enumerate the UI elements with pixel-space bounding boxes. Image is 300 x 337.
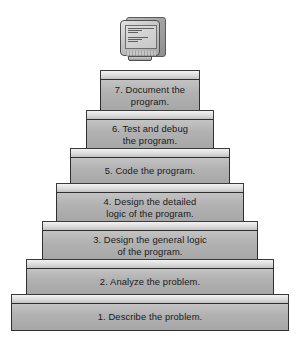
step-label: 5. Code the program.: [101, 165, 200, 177]
step-front-face: 6. Test and debug the program.: [86, 119, 214, 150]
step-4: 4. Design the detailed logic of the prog…: [56, 183, 244, 225]
screen-text-gap: [128, 34, 154, 36]
step-label: 6. Test and debug the program.: [108, 123, 192, 147]
step-7: 7. Document the program.: [100, 70, 200, 112]
step-front-face: 7. Document the program.: [100, 79, 200, 112]
step-front-face: 2. Analyze the problem.: [26, 268, 274, 295]
screen-text-line: [128, 30, 142, 31]
step-6: 6. Test and debug the program.: [86, 110, 214, 152]
computer-monitor-icon: [118, 15, 168, 65]
step-front-face: 1. Describe the problem.: [11, 303, 289, 331]
monitor-base: [128, 56, 152, 61]
step-front-face: 4. Design the detailed logic of the prog…: [56, 192, 244, 223]
step-1: 1. Describe the problem.: [11, 294, 289, 334]
step-front-face: 5. Code the program.: [70, 157, 230, 185]
step-3: 3. Design the general logic of the progr…: [42, 221, 258, 263]
step-2: 2. Analyze the problem.: [26, 259, 274, 299]
step-label: 4. Design the detailed logic of the prog…: [100, 196, 201, 220]
step-front-face: 3. Design the general logic of the progr…: [42, 230, 258, 261]
screen-text-line: [128, 39, 142, 40]
step-label: 1. Describe the problem.: [94, 311, 207, 323]
screen-text-line: [128, 37, 148, 38]
step-label: 3. Design the general logic of the progr…: [89, 234, 211, 258]
monitor-screen: [125, 25, 157, 49]
screen-text-line: [128, 41, 138, 42]
step-label: 2. Analyze the problem.: [96, 276, 204, 288]
diagram-canvas: 7. Document the program. 6. Test and deb…: [0, 0, 300, 337]
screen-text-line: [128, 32, 138, 33]
monitor-body: [120, 20, 160, 56]
screen-text-line: [128, 28, 154, 29]
step-5: 5. Code the program.: [70, 148, 230, 188]
step-label: 7. Document the program.: [111, 84, 189, 108]
